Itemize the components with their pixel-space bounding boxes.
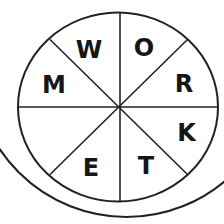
wheel-letter-bottom-right: T: [138, 152, 155, 180]
word-wheel-figure: W O R K T E M: [0, 0, 224, 224]
word-wheel-svg: W O R K T E M: [0, 0, 224, 224]
wheel-letter-top-left: W: [76, 36, 102, 64]
wheel-spokes: [18, 13, 218, 201]
wheel-letter-left-upper: M: [42, 71, 66, 99]
wheel-letter-top-right: O: [134, 34, 154, 62]
outer-swoosh-arc: [0, 0, 224, 217]
wheel-letter-right-lower: K: [177, 119, 197, 147]
wheel-letter-right-upper: R: [175, 70, 193, 98]
wheel-letter-bottom-left: E: [83, 154, 99, 182]
